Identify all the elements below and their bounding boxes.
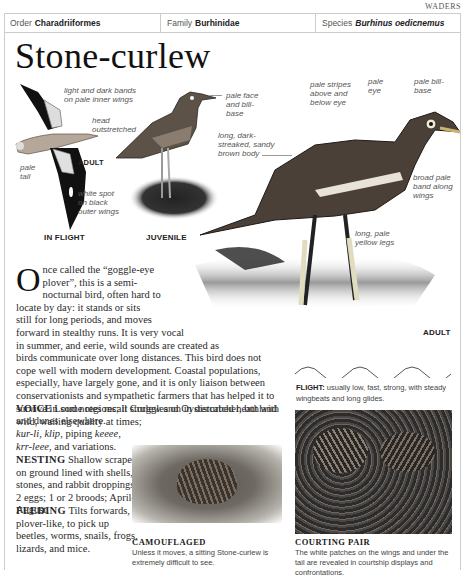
camouflaged-title: CAMOUFLAGED: [132, 537, 206, 547]
label-band: broad pale band along wings: [413, 173, 453, 200]
voice-heading: VOICE: [16, 403, 52, 414]
camouflaged-text: Unless it moves, a sitting Stone-curlew …: [132, 548, 292, 568]
species-value: Burhinus oedicnemus: [355, 18, 444, 28]
label-stripes: pale stripes above and below eye: [310, 80, 355, 107]
in-flight-adult-caption: ADULT: [78, 158, 104, 167]
courting-pair-photo: [295, 410, 452, 534]
species-cell: Species Burhinus oedicnemus: [316, 13, 460, 32]
camouflaged-bird: [177, 459, 237, 504]
flight-heading: FLIGHT:: [296, 383, 325, 392]
courting-text: The white patches on the wings and under…: [295, 548, 455, 578]
in-flight-caption: IN FLIGHT: [44, 233, 85, 242]
order-label: Order: [10, 18, 32, 28]
family-value: Burhinidae: [195, 18, 239, 28]
feeding-heading: FEEDING: [16, 505, 66, 516]
flight-note: FLIGHT: usually low, fast, strong, with …: [296, 382, 454, 404]
order-value: Charadriiformes: [35, 18, 101, 28]
flight-pattern-wave: [295, 362, 455, 378]
page-title: Stone-curlew: [15, 36, 211, 76]
leader-line: [210, 95, 222, 96]
label-tail: pale tail: [20, 163, 40, 181]
species-label: Species: [322, 18, 352, 28]
label-bill: pale bill-base: [414, 77, 448, 95]
feeding-section: FEEDING Tilts forwards, plover-like, to …: [16, 505, 141, 555]
juvenile-caption: JUVENILE: [146, 233, 187, 242]
family-cell: Family Burhinidae: [161, 13, 316, 32]
leader-line: [262, 155, 292, 156]
drop-cap: O: [16, 266, 41, 294]
label-body: long, dark-streaked, sandy brown body: [218, 131, 276, 158]
courting-title: COURTING PAIR: [295, 537, 370, 547]
camouflaged-photo: [132, 445, 282, 523]
section-tag: WADERS: [425, 2, 461, 11]
order-cell: Order Charadriiformes: [4, 13, 161, 32]
label-legs: long, pale yellow legs: [355, 229, 400, 247]
courting-bird-right: [380, 432, 435, 472]
nesting-heading: NESTING: [16, 454, 65, 465]
taxonomy-bar: Order Charadriiformes Family Burhinidae …: [4, 13, 460, 33]
family-label: Family: [167, 18, 192, 28]
courting-bird-left: [313, 428, 368, 473]
label-eye: pale eye: [368, 77, 398, 95]
